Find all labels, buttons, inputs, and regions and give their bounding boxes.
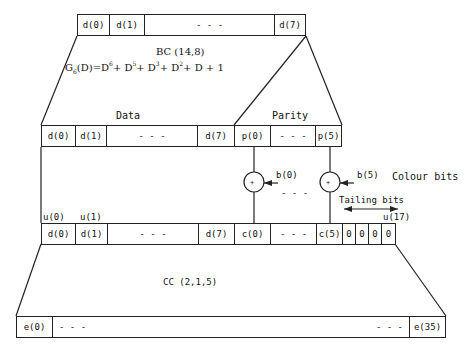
low-cell-c5: c(5) — [317, 224, 343, 244]
mid-cell-d0: d(0) — [42, 126, 76, 146]
low-cell-tail-2: 0 — [369, 224, 382, 244]
top-data-row: d(0) d(1) - - - d(7) — [77, 14, 306, 36]
mid-cell-parity-ellipsis: - - - — [271, 126, 316, 146]
colour-bits-label: Colour bits — [392, 172, 458, 182]
top-cell-d1: d(1) — [110, 15, 145, 35]
low-cell-parity-ellipsis: - - - — [271, 224, 317, 244]
generator-polynomial: G6(D)=D6+ D5+ D3+ D2+ D + 1 — [65, 61, 224, 75]
parity-label: Parity — [272, 111, 308, 121]
colour-bit-b0: b(0) — [276, 171, 298, 180]
mid-cell-p0: p(0) — [235, 126, 271, 146]
mid-cell-d1: d(1) — [76, 126, 107, 146]
top-cell-ellipsis: - - - — [145, 15, 275, 35]
bc-label: BC (14,8) — [156, 47, 204, 57]
gen-body: (D)=D — [77, 62, 109, 73]
mid-cell-p5: p(5) — [316, 126, 341, 146]
mid-cell-d7: d(7) — [198, 126, 235, 146]
low-cell-d0: d(0) — [42, 224, 76, 244]
cc-label: CC (2,1,5) — [163, 278, 217, 287]
top-cell-d7: d(7) — [275, 15, 305, 35]
low-cell-tail-3: 0 — [382, 224, 395, 244]
index-u0: u(0) — [43, 213, 65, 222]
low-cell-d1: d(1) — [76, 224, 108, 244]
mid-cell-data-ellipsis: - - - — [107, 126, 198, 146]
data-label: Data — [116, 111, 140, 121]
middle-codeword-row: d(0) d(1) - - - d(7) p(0) - - - p(5) — [41, 125, 342, 147]
low-cell-c0: c(0) — [235, 224, 271, 244]
top-cell-d0: d(0) — [78, 15, 110, 35]
bottom-encoded-row: e(0) - - - - - - e(35) — [16, 316, 446, 338]
xor-between-ellipsis: - - - — [281, 189, 308, 198]
low-cell-tail-0: 0 — [343, 224, 356, 244]
bot-cell-e35: e(35) — [410, 317, 445, 337]
low-cell-d7: d(7) — [199, 224, 235, 244]
gen-t1: + D — [113, 62, 133, 73]
gen-t4: + D + 1 — [183, 62, 224, 73]
xor-symbol-5: + — [326, 179, 330, 187]
tailing-bits-label: Tailing bits — [339, 196, 404, 205]
lower-codeword-row: d(0) d(1) - - - d(7) c(0) - - - c(5) 0 0… — [41, 223, 396, 245]
low-cell-tail-1: 0 — [356, 224, 369, 244]
bot-cell-e0: e(0) — [17, 317, 53, 337]
colour-bit-b5: b(5) — [357, 171, 379, 180]
bot-cell-middle: - - - - - - — [53, 317, 410, 337]
gen-t2: + D — [136, 62, 156, 73]
index-u17: u(17) — [383, 213, 410, 222]
index-u1: u(1) — [80, 213, 102, 222]
xor-symbol-0: + — [250, 179, 254, 187]
gen-prefix: G — [65, 62, 73, 73]
bot-ellipsis-left: - - - — [59, 322, 86, 332]
bot-ellipsis-right: - - - — [376, 322, 403, 332]
low-cell-data-ellipsis: - - - — [108, 224, 199, 244]
gen-t3: + D — [160, 62, 180, 73]
